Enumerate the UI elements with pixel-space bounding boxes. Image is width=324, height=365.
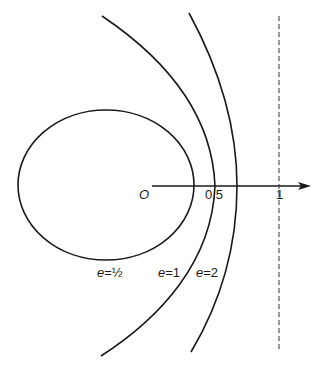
svg-text:e=2: e=2 [196, 265, 218, 280]
tick-label-one: 1 [276, 187, 283, 202]
ellipse-label: e=½ [97, 265, 123, 280]
ellipse-curve [18, 110, 194, 260]
parabola-label: e=1 [158, 265, 180, 280]
svg-text:e=1: e=1 [158, 265, 180, 280]
tick-label-half: 0.5 [205, 187, 223, 202]
hyperbola-label: e=2 [196, 265, 218, 280]
conics-diagram: O 0.5 1 e=½ e=1 e=2 [0, 0, 324, 365]
hyperbola-curve [189, 13, 237, 352]
origin-label: O [139, 187, 149, 202]
svg-text:e=½: e=½ [97, 265, 123, 280]
